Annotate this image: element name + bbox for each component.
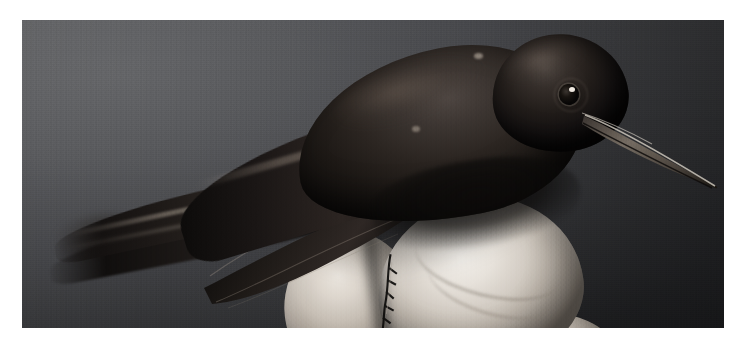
- photograph: [22, 20, 724, 328]
- photo-page: [0, 0, 747, 354]
- film-grain: [22, 20, 724, 328]
- caption: [22, 330, 724, 350]
